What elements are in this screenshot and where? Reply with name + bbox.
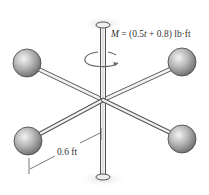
- bottom-bearing-cap: [96, 174, 110, 180]
- arm-upper-left: [34, 67, 103, 100]
- arm-upper-right: [103, 67, 175, 100]
- sphere-upper-left: [13, 49, 41, 77]
- arm-lower-right: [103, 100, 175, 135]
- sphere-lower-left: [14, 127, 42, 155]
- dimension-label: 0.6 ft: [57, 147, 77, 157]
- sphere-upper-right: [168, 48, 196, 76]
- sphere-lower-right: [168, 125, 196, 153]
- moment-label: M = (0.5t + 0.8) lb·ft: [110, 29, 191, 40]
- rotating-assembly-diagram: 0.6 ft M = (0.5t + 0.8) lb·ft: [0, 0, 209, 195]
- top-bearing-cap: [96, 22, 110, 28]
- arm-lower-left: [34, 100, 103, 137]
